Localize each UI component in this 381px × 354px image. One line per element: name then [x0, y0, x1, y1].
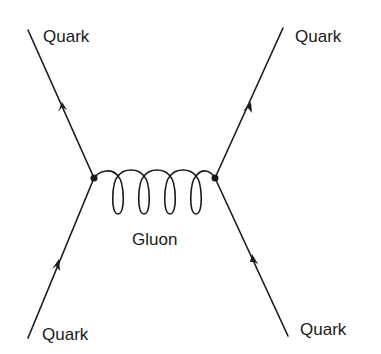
- label-top-left: Quark: [43, 27, 90, 46]
- vertex-right: [212, 175, 219, 182]
- label-bottom-left: Quark: [42, 325, 89, 344]
- feynman-diagram: Quark Quark Gluon Quark Quark: [0, 0, 381, 354]
- gluon-propagator: [94, 170, 215, 214]
- label-top-right: Quark: [295, 27, 342, 46]
- vertex-left: [91, 175, 98, 182]
- quark-line-top-right: [215, 28, 283, 178]
- label-bottom-right: Quark: [300, 320, 347, 339]
- quark-line-bottom-right: [215, 178, 288, 336]
- label-gluon: Gluon: [132, 230, 177, 249]
- quark-line-top-left: [28, 30, 94, 178]
- quark-line-bottom-left: [28, 178, 94, 338]
- arrow-icon: [58, 102, 67, 112]
